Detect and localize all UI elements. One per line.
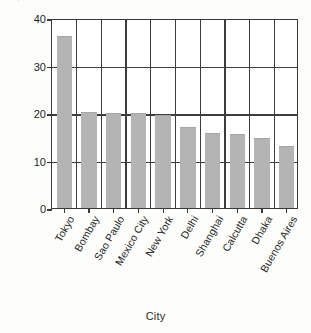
x-tick-mark (163, 208, 164, 213)
y-axis-title-label: 2010 Population in Millions (8, 0, 22, 32)
y-tick-label: 30 (24, 62, 46, 72)
x-tick-mark (237, 208, 238, 213)
x-axis-title: City (0, 310, 311, 322)
x-tick-mark (113, 208, 114, 213)
bar (180, 127, 195, 208)
y-tick-label: 0 (24, 204, 46, 214)
y-tick-label: 40 (24, 14, 46, 24)
y-tick-mark (47, 114, 52, 115)
y-tick-label: 10 (24, 157, 46, 167)
y-tick-mark (47, 162, 52, 163)
bar (57, 36, 72, 208)
bar-chart-figure: 2010 Population in Millions 010203040 To… (0, 0, 311, 333)
x-tick-mark (187, 208, 188, 213)
bar (106, 113, 121, 208)
y-tick-mark (47, 209, 52, 210)
plot-area (51, 19, 298, 209)
bar (155, 115, 170, 208)
x-tick-mark (138, 208, 139, 213)
x-tick-mark (212, 208, 213, 213)
x-tick-label: Dhaka (250, 214, 275, 246)
x-tick-mark (286, 208, 287, 213)
x-tick-mark (88, 208, 89, 213)
y-tick-label: 20 (24, 109, 46, 119)
y-axis-tick-labels: 010203040 (22, 0, 46, 333)
y-tick-mark (47, 67, 52, 68)
x-tick-label: Delhi (179, 214, 201, 241)
x-tick-mark (64, 208, 65, 213)
bars-layer (52, 20, 297, 208)
x-axis-tick-labels: TokyoBombaySao PauloMexico CityNew YorkD… (51, 214, 298, 309)
bar (254, 138, 269, 208)
y-tick-mark (47, 19, 52, 20)
bar (205, 133, 220, 208)
bar (131, 113, 146, 208)
y-axis-title: 2010 Population in Millions (8, 0, 22, 32)
x-tick-mark (261, 208, 262, 213)
x-tick-label: Tokyo (53, 214, 76, 244)
bar (279, 146, 294, 208)
bar (230, 134, 245, 208)
bar (81, 112, 96, 208)
x-axis-title-label: City (146, 310, 166, 322)
